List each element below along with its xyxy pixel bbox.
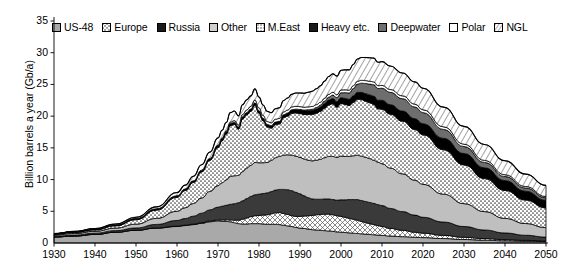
stacked-area-bands — [54, 57, 546, 243]
plot-area — [0, 0, 582, 274]
chart-figure: Billion barrels a year (Gb/a) US-48Europ… — [0, 0, 582, 274]
